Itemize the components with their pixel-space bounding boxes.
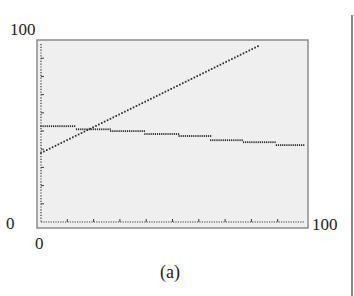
x-axis-max-label: 100 <box>312 216 338 233</box>
figure-caption: (a) <box>160 264 180 281</box>
chart-plot <box>0 0 354 296</box>
y-axis-min-label: 0 <box>6 215 15 232</box>
x-axis-min-label: 0 <box>35 235 44 252</box>
y-axis-max-label: 100 <box>10 21 36 38</box>
